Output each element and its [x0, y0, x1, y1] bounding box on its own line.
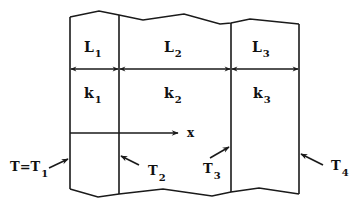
- label-L3: L3: [252, 39, 270, 59]
- label-L2: L2: [164, 39, 182, 59]
- bottom-break-line: [70, 188, 299, 197]
- label-k2: k2: [164, 85, 182, 105]
- label-k3: k3: [253, 85, 271, 105]
- label-T2: T2: [148, 163, 166, 183]
- label-L1: L1: [84, 39, 102, 59]
- label-T3: T3: [203, 161, 221, 181]
- pointer-arrow-T1: [49, 159, 68, 168]
- label-T1: T=T1: [10, 159, 48, 179]
- top-break-line: [70, 11, 299, 24]
- pointer-arrow-T3: [210, 147, 229, 158]
- pointer-arrow-T4: [301, 154, 323, 165]
- label-k1: k1: [84, 85, 102, 105]
- composite-wall-diagram: L1 L2 L3 k1 k2 k3 x T=T1 T2 T3 T4: [0, 0, 353, 205]
- pointer-arrow-T2: [121, 156, 139, 165]
- label-T4: T4: [331, 158, 349, 178]
- x-axis-label: x: [187, 126, 195, 140]
